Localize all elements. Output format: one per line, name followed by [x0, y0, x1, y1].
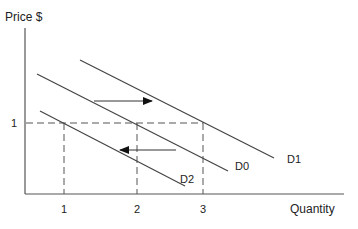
y-axis-label: Price $: [5, 10, 43, 24]
x-axis-label: Quantity: [290, 202, 335, 216]
price-tick-1: 1: [11, 117, 17, 129]
d0-label: D0: [235, 160, 249, 172]
demand-shift-diagram: Price $ Quantity 1 1 2 3 D1 D0 D2: [0, 0, 358, 229]
quantity-tick-1: 1: [61, 203, 67, 215]
dashed-guides: [26, 123, 203, 194]
quantity-tick-3: 3: [200, 203, 206, 215]
d1-label: D1: [287, 153, 301, 165]
demand-curve-d1: [80, 60, 274, 158]
demand-curve-d2: [40, 111, 185, 186]
quantity-tick-2: 2: [134, 203, 140, 215]
d2-label: D2: [180, 173, 194, 185]
